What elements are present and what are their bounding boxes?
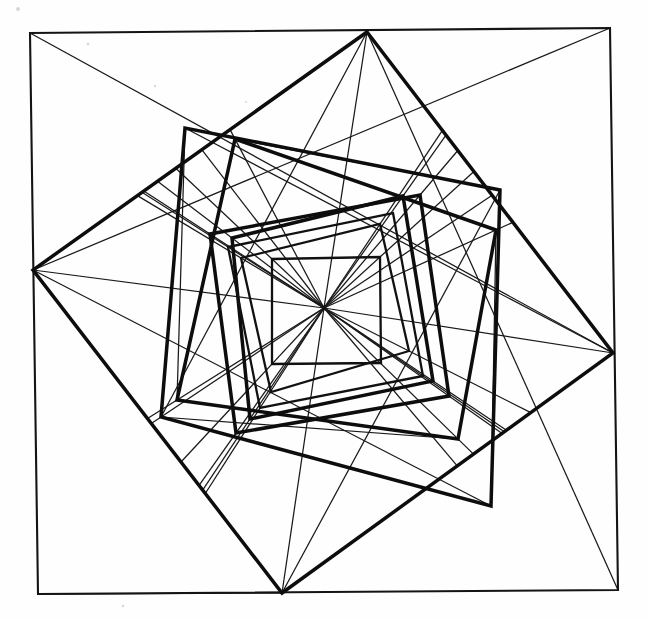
figure-canvas [0, 0, 649, 620]
paper-speck-3 [245, 101, 247, 103]
paper-speck-4 [122, 605, 125, 608]
paper-speck-2 [154, 85, 156, 87]
paper-speck-1 [87, 43, 90, 46]
nested-squares-diagram [0, 0, 649, 620]
paper-speck-0 [16, 7, 20, 11]
center-point [322, 306, 327, 311]
